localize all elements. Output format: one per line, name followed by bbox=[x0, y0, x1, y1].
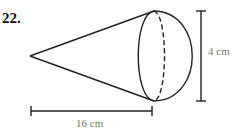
base-ellipse-front bbox=[138, 11, 154, 101]
length-label: 16 cm bbox=[76, 117, 104, 129]
height-label: 4 cm bbox=[208, 45, 230, 57]
cone-lower-edge bbox=[30, 56, 154, 101]
hemisphere-outline bbox=[154, 11, 192, 101]
cone-upper-edge bbox=[30, 11, 154, 56]
base-ellipse-back-dashed bbox=[154, 11, 165, 101]
cone-hemisphere-figure: 4 cm 16 cm bbox=[0, 0, 244, 133]
